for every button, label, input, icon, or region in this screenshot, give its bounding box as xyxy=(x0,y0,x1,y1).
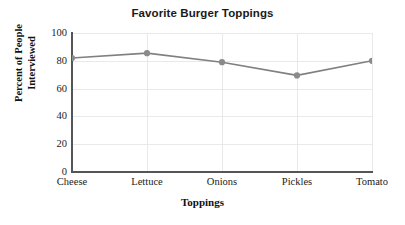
y-tick-label: 100 xyxy=(27,28,67,38)
data-point-marker xyxy=(219,59,225,65)
data-point-marker xyxy=(144,50,150,56)
y-tick-label: 60 xyxy=(27,84,67,94)
data-point-marker xyxy=(72,55,75,61)
y-tick-label: 20 xyxy=(27,139,67,149)
x-tick-label: Tomato xyxy=(327,176,405,187)
data-point-marker xyxy=(369,58,372,64)
gridline-vertical xyxy=(372,33,373,172)
data-point-marker xyxy=(294,72,300,78)
x-axis-title: Toppings xyxy=(0,196,405,208)
y-tick-label: 40 xyxy=(27,111,67,121)
y-tick-label: 80 xyxy=(27,56,67,66)
chart-container: Favorite Burger Toppings Percent of Peop… xyxy=(0,0,405,225)
x-axis-tick-labels: CheeseLettuceOnionsPicklesTomato xyxy=(0,176,405,196)
data-series-layer xyxy=(72,33,372,172)
